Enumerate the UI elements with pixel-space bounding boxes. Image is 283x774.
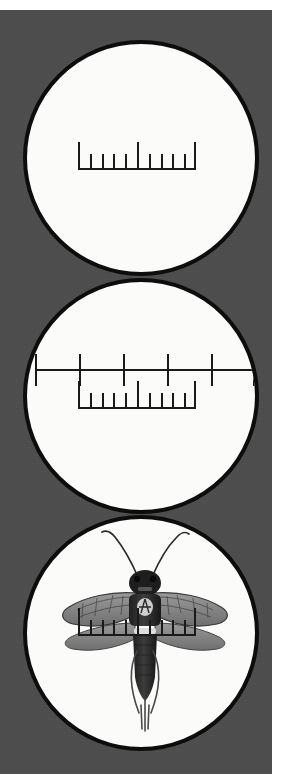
ruler-minor-tick	[90, 620, 92, 636]
fine-ruler-panel-b	[78, 381, 196, 409]
figure-root: Fine graticule scale alone	[0, 0, 283, 774]
compound-eye-icon	[150, 576, 156, 582]
coarse-scale-tick	[253, 354, 255, 386]
ruler-minor-tick	[90, 393, 92, 409]
ruler-minor-tick	[172, 620, 174, 636]
panel-c-viewfield[interactable]	[23, 515, 259, 751]
abdomen-icon	[133, 634, 157, 701]
panel-c-inner	[27, 519, 255, 747]
fine-ruler-panel-a	[78, 142, 196, 170]
ruler-major-tick	[137, 608, 139, 636]
ruler-minor-tick	[161, 620, 163, 636]
ruler-major-tick	[78, 381, 80, 409]
ruler-minor-tick	[102, 620, 104, 636]
panel-b-inner	[27, 282, 255, 510]
ruler-major-tick	[194, 142, 196, 170]
ruler-minor-tick	[113, 154, 115, 170]
ruler-minor-tick	[90, 154, 92, 170]
ruler-major-tick	[194, 381, 196, 409]
ruler-minor-tick	[113, 620, 115, 636]
ruler-major-tick	[194, 608, 196, 636]
ruler-minor-tick	[184, 154, 186, 170]
ruler-minor-tick	[149, 620, 151, 636]
ruler-major-tick	[78, 608, 80, 636]
ruler-minor-tick	[125, 154, 127, 170]
ruler-minor-tick	[149, 154, 151, 170]
ruler-minor-tick	[161, 393, 163, 409]
ruler-minor-tick	[113, 393, 115, 409]
ruler-minor-tick	[102, 393, 104, 409]
ruler-minor-tick	[172, 154, 174, 170]
ruler-minor-tick	[125, 620, 127, 636]
ruler-minor-tick	[102, 154, 104, 170]
head-icon	[129, 570, 161, 596]
panel-a-viewfield[interactable]	[23, 40, 259, 276]
compound-eye-icon	[134, 576, 140, 582]
coarse-scale-tick	[35, 354, 37, 386]
fine-ruler-panel-c	[78, 608, 196, 636]
panel-a-inner	[27, 44, 255, 272]
coarse-scale-tick	[211, 354, 213, 386]
ruler-major-tick	[137, 142, 139, 170]
ruler-minor-tick	[161, 154, 163, 170]
ruler-minor-tick	[184, 393, 186, 409]
ruler-major-tick	[78, 142, 80, 170]
coarse-scale-bar	[35, 369, 255, 371]
panel-b-viewfield[interactable]	[23, 278, 259, 514]
ruler-minor-tick	[172, 393, 174, 409]
ruler-minor-tick	[184, 620, 186, 636]
ruler-minor-tick	[125, 393, 127, 409]
ruler-minor-tick	[149, 393, 151, 409]
ruler-major-tick	[137, 381, 139, 409]
